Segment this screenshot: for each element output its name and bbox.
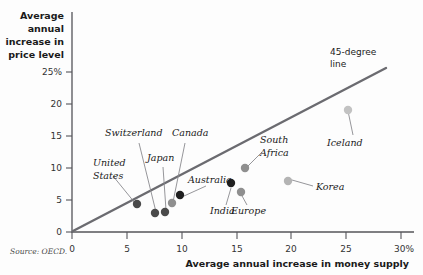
point-label-iceland: Iceland xyxy=(326,137,363,148)
forty-five-degree-label-line1: 45-degree xyxy=(330,47,377,57)
point-label-korea: Korea xyxy=(315,181,345,192)
x-tick-label-0: 0 xyxy=(69,244,75,254)
y-tick-label-20: 20 xyxy=(51,99,63,109)
data-point-australia[interactable] xyxy=(176,191,184,199)
data-point-japan[interactable] xyxy=(161,208,169,216)
y-axis-ticks xyxy=(66,72,72,232)
y-tick-label-15: 15 xyxy=(51,131,62,141)
x-tick-label-5: 5 xyxy=(124,244,130,254)
data-point-europe[interactable] xyxy=(237,188,245,196)
source-note: Source: OECD. xyxy=(10,247,67,256)
point-label-united-states-line1: United xyxy=(93,157,126,168)
forty-five-degree-label-line2: line xyxy=(330,59,347,69)
x-tick-label-20: 20 xyxy=(285,244,297,254)
x-tick-label-15: 15 xyxy=(231,244,242,254)
data-point-switzerland[interactable] xyxy=(151,209,159,217)
data-point-canada[interactable] xyxy=(168,199,176,207)
point-label-australia: Australia xyxy=(187,174,232,185)
point-label-japan: Japan xyxy=(145,152,174,163)
data-point-korea[interactable] xyxy=(284,177,292,185)
x-axis-ticks xyxy=(72,232,401,239)
y-axis-title-line1: Average xyxy=(20,10,64,21)
x-axis-title: Average annual increase in money supply xyxy=(186,258,410,269)
point-label-united-states-line2: States xyxy=(93,170,123,181)
point-label-south-africa-line1: South xyxy=(260,134,288,145)
point-label-europe: Europe xyxy=(230,205,266,216)
axis-lines xyxy=(72,12,414,232)
y-axis-title-line4: price level xyxy=(8,49,64,60)
data-point-iceland[interactable] xyxy=(344,106,352,114)
point-label-switzerland: Switzerland xyxy=(105,127,163,138)
y-tick-label-5: 5 xyxy=(56,195,62,205)
x-tick-label-25: 25 xyxy=(340,244,351,254)
scatter-chart: 0 5 10 15 20 25% 0 5 10 15 20 25 30% Ave… xyxy=(0,0,423,275)
x-tick-label-30: 30% xyxy=(394,244,414,254)
y-tick-label-0: 0 xyxy=(56,227,62,237)
data-point-united-states[interactable] xyxy=(133,200,141,208)
y-tick-label-25: 25% xyxy=(42,67,62,77)
point-label-canada: Canada xyxy=(172,127,209,138)
y-axis-title-line3: increase in xyxy=(5,36,64,47)
y-tick-label-10: 10 xyxy=(51,163,63,173)
data-point-south-africa[interactable] xyxy=(241,164,249,172)
point-label-south-africa-line2: Africa xyxy=(259,147,289,158)
x-tick-label-10: 10 xyxy=(176,244,188,254)
y-axis-title-line2: annual xyxy=(28,23,64,34)
